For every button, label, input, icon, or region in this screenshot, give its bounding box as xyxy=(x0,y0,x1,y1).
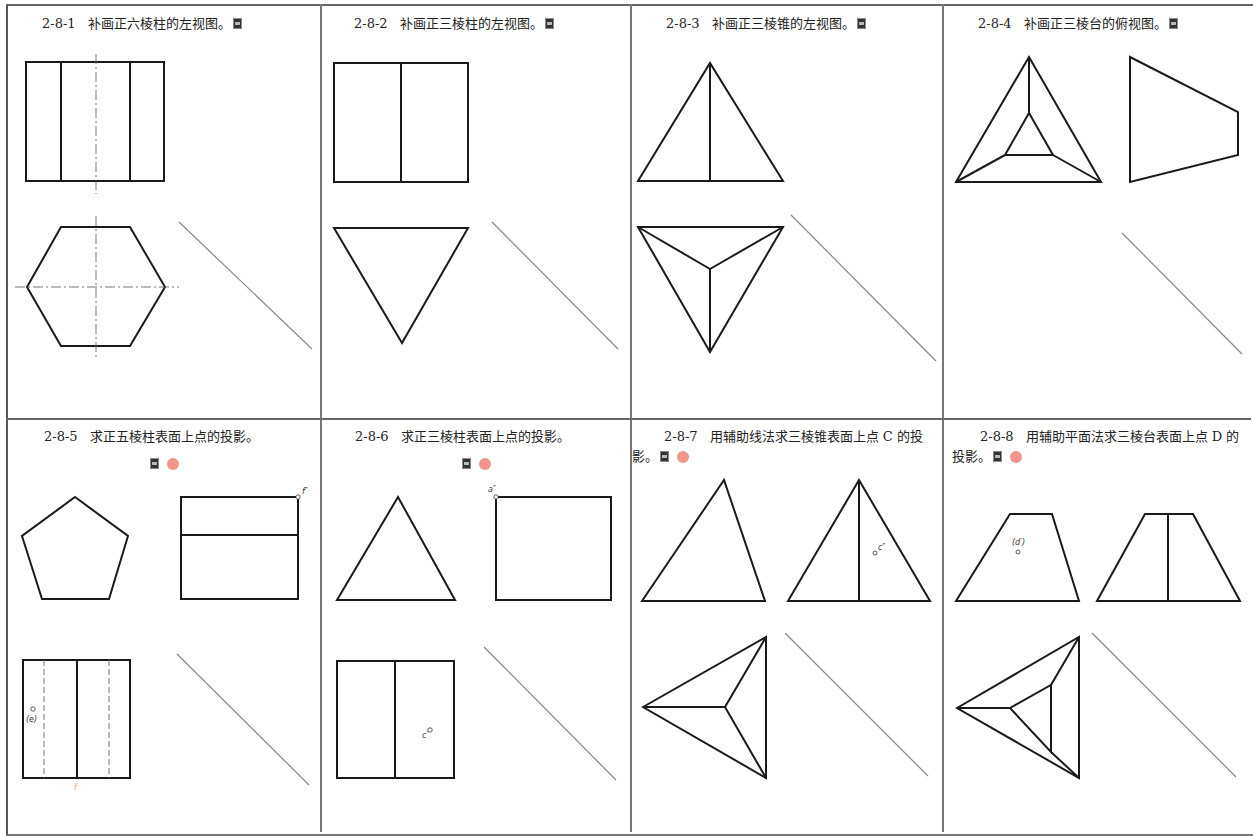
miter-line xyxy=(785,633,928,776)
point-label: c′ xyxy=(422,731,428,740)
frustum-pyramid-drawing xyxy=(944,4,1251,420)
triangular-prism-points-drawing: a″ c′ xyxy=(322,420,632,832)
point-label: c″ xyxy=(878,543,885,552)
exercise-2-8-3: 2-8-3补画正三棱锥的左视图。 xyxy=(632,4,944,420)
point-label: f″ xyxy=(302,487,308,496)
exercise-2-8-7: 2-8-7用辅助线法求三棱锥表面上点 C 的投影。 c″ xyxy=(632,420,944,832)
miter-line xyxy=(484,647,616,780)
point-label: (e) xyxy=(26,715,37,724)
triangular-pyramid-drawing xyxy=(632,4,944,420)
miter-line xyxy=(1122,233,1242,354)
point-label: (d′) xyxy=(1012,538,1025,547)
triangular-prism-drawing xyxy=(322,4,632,420)
exercise-2-8-1: 2-8-1补画正六棱柱的左视图。 xyxy=(6,4,322,420)
exercise-2-8-8: 2-8-8用辅助平面法求三棱台表面上点 D 的投影。 (d′) xyxy=(944,420,1251,832)
miter-line xyxy=(791,215,936,361)
triangular-pyramid-points-drawing: c″ xyxy=(632,420,944,832)
exercise-2-8-2: 2-8-2补画正三棱柱的左视图。 xyxy=(322,4,632,420)
hexagonal-prism-drawing xyxy=(6,4,322,420)
miter-line xyxy=(177,654,309,785)
miter-line xyxy=(179,222,312,349)
miter-line xyxy=(1092,633,1236,777)
point-label: a″ xyxy=(488,485,496,494)
pentagonal-prism-drawing: f″ (e) f xyxy=(6,420,322,832)
exercise-2-8-6: 2-8-6求正三棱柱表面上点的投影。 a″ c′ xyxy=(322,420,632,832)
exercise-2-8-4: 2-8-4补画正三棱台的俯视图。 xyxy=(944,4,1251,420)
miter-line xyxy=(492,222,618,349)
exercise-2-8-5: 2-8-5求正五棱柱表面上点的投影。 f″ (e) f xyxy=(6,420,322,832)
point-label: f xyxy=(74,783,78,792)
frustum-points-drawing: (d′) xyxy=(944,420,1251,832)
